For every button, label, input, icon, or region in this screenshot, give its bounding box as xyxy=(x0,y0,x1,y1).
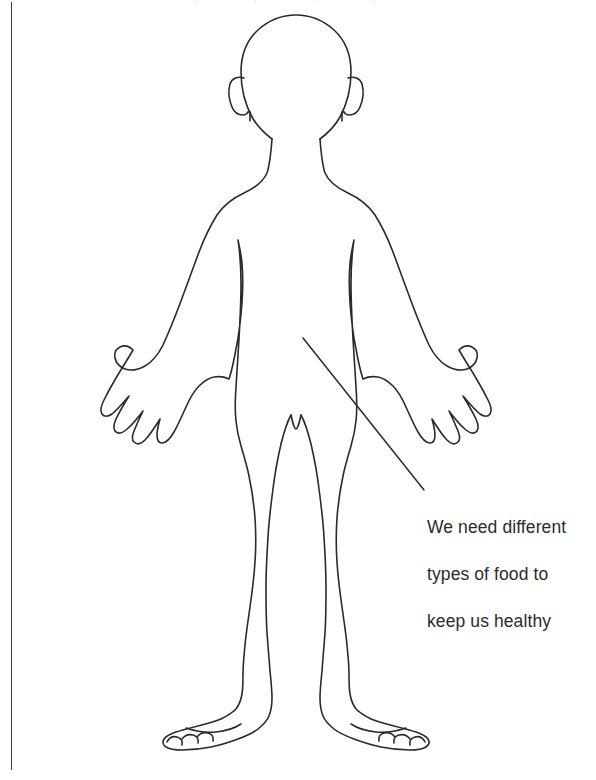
food-health-annotation: We need different types of food to keep … xyxy=(427,492,587,657)
annotation-line-2: types of food to xyxy=(427,563,587,587)
worksheet-page: · · · · xyxy=(0,0,596,780)
left-body-contour xyxy=(101,139,291,750)
left-ear-neck-join xyxy=(248,112,250,121)
right-foot-toes xyxy=(379,733,425,745)
head-outline xyxy=(241,15,351,139)
annotation-leader-line xyxy=(303,338,424,490)
right-body-contour xyxy=(301,139,491,750)
body-contour-group xyxy=(101,139,491,750)
crotch-notch xyxy=(291,415,301,429)
annotation-line-1: We need different xyxy=(427,516,587,540)
right-ear xyxy=(344,77,363,115)
right-ear-neck-join xyxy=(342,112,344,121)
left-ear xyxy=(229,77,248,115)
right-foot-arch xyxy=(351,724,406,732)
left-foot-arch xyxy=(186,724,241,732)
left-foot-toes xyxy=(167,733,213,745)
body-outline-drawing xyxy=(0,0,596,780)
head-group xyxy=(229,15,363,139)
annotation-line-3: keep us healthy xyxy=(427,610,587,634)
